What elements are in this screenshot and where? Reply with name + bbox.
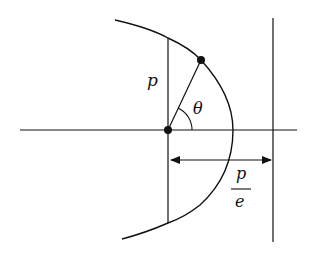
conic-diagram: p θ p e	[0, 0, 311, 257]
angle-arc	[178, 108, 192, 130]
label-p-over-e-denominator: e	[235, 192, 244, 211]
curve-point	[197, 56, 205, 64]
radius-line	[168, 60, 201, 130]
label-p-over-e-numerator: p	[236, 164, 246, 183]
label-theta: θ	[193, 99, 203, 118]
label-p: p	[147, 70, 158, 90]
focus-point	[164, 126, 172, 134]
